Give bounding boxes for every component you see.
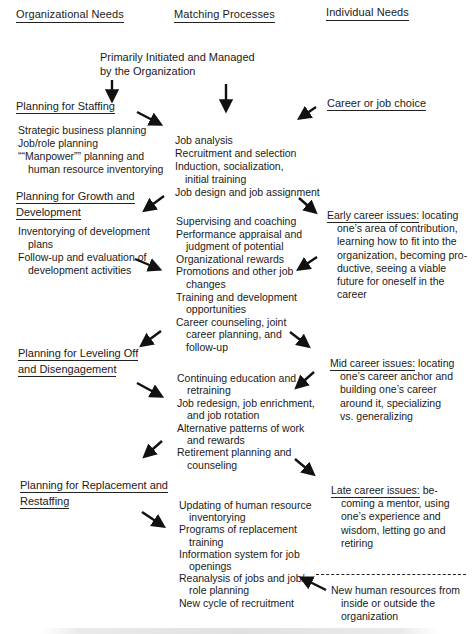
column-header-matching-processes: Matching Processes <box>174 8 275 23</box>
dashed-divider <box>316 574 466 575</box>
heading-text: Early career issues: <box>327 209 419 223</box>
org-heading-growth: Planning for Growth and Development <box>16 189 135 219</box>
arrow-left-down-icon <box>142 331 161 345</box>
heading-text: Mid career issues: <box>330 357 415 371</box>
list-item: Induction, socialization, <box>175 160 320 173</box>
heading-text: and Disengagement <box>18 363 116 377</box>
list-item: Continuing education and <box>177 372 315 384</box>
list-line: wisdom, letting go and <box>331 524 450 537</box>
note-line: Primarily Initiated and Managed <box>100 50 255 64</box>
list-line: vs. generalizing <box>330 410 454 423</box>
list-item: role planning <box>179 584 312 596</box>
org-heading-staffing: Planning for Staffing <box>16 99 115 113</box>
column-header-organizational-needs: Organizational Needs <box>16 8 124 23</box>
list-line: organization <box>331 610 460 623</box>
heading-rest: locating <box>419 209 458 221</box>
list-item: Strategic business planning <box>18 124 163 137</box>
org-heading-replacement: Planning for Replacement and Restaffing <box>20 478 168 508</box>
ind-mid-career: Mid career issues: locating one’s career… <box>330 357 454 423</box>
heading-text: Planning for Growth and <box>16 190 135 204</box>
list-line: around it, specializing <box>330 397 454 410</box>
cutoff-caption <box>40 628 440 634</box>
list-item: Promotions and other job <box>176 265 302 278</box>
list-item: Information system for job <box>179 548 312 560</box>
list-line: one’s area of contribution, <box>327 222 467 235</box>
list-item: plans <box>18 238 150 251</box>
list-item: human resource inventorying <box>18 163 163 176</box>
matching-list-growth: Supervising and coaching Performance app… <box>176 215 302 354</box>
list-item: Job analysis <box>175 134 320 147</box>
list-item: Training and development <box>176 291 302 304</box>
ind-late-career: Late career issues: be- coming a mentor,… <box>331 484 450 550</box>
list-item: retraining <box>177 384 315 396</box>
list-item: training <box>179 536 312 548</box>
heading-text: Planning for Replacement and <box>20 479 168 493</box>
list-line: career <box>327 288 467 301</box>
column-header-individual-needs: Individual Needs <box>326 6 409 21</box>
list-item: Job redesign, job enrichment, <box>177 397 315 409</box>
org-list-growth: Inventorying of development plans Follow… <box>18 225 150 277</box>
heading-text: Planning for Staffing <box>16 100 115 114</box>
list-line: one’s career anchor and <box>330 370 454 383</box>
arrow-right-down-icon <box>142 512 163 526</box>
list-item: development activities <box>18 264 150 277</box>
list-item: Career counseling, joint <box>176 316 302 329</box>
heading-text: Development <box>16 206 81 220</box>
list-line: learning how to fit into the <box>327 235 467 248</box>
list-item: inventorying <box>179 511 312 523</box>
matching-list-replacement: Updating of human resource inventorying … <box>179 499 312 609</box>
heading-rest: be- <box>420 484 438 496</box>
heading-text: Planning for Leveling Off <box>18 347 138 361</box>
list-item: Programs of replacement <box>179 523 312 535</box>
list-item: follow-up <box>176 341 302 354</box>
list-line: retiring <box>331 537 450 550</box>
ind-early-career: Early career issues: locating one’s area… <box>327 209 467 301</box>
list-item: Updating of human resource <box>179 499 312 511</box>
list-item: Reanalysis of jobs and job/ <box>179 572 312 584</box>
list-item: career planning, and <box>176 328 302 341</box>
list-item: judgment of potential <box>176 240 302 253</box>
heading-text: Late career issues: <box>331 484 420 498</box>
list-item: Organizational rewards <box>176 253 302 266</box>
heading-text: Restaffing <box>20 495 69 509</box>
list-item: and job rotation <box>177 409 315 421</box>
list-item: opportunities <box>176 303 302 316</box>
list-item: Retirement planning and <box>177 446 315 458</box>
list-line: New human resources from <box>331 584 460 597</box>
org-heading-leveling-off: Planning for Leveling Off and Disengagem… <box>18 346 138 376</box>
list-item: changes <box>176 278 302 291</box>
arrow-right-down-icon <box>137 112 160 124</box>
list-item: counseling <box>177 459 315 471</box>
list-line: coming a mentor, using <box>331 497 450 510</box>
ind-heading-career-choice: Career or job choice <box>327 96 426 110</box>
list-item: openings <box>179 560 312 572</box>
list-item: and rewards <box>177 434 315 446</box>
list-item: ““Manpower”” planning and <box>18 150 163 163</box>
list-line: organization, becoming pro- <box>327 249 467 262</box>
note-line: by the Organization <box>100 64 255 78</box>
org-list-staffing: Strategic business planning Job/role pla… <box>18 124 163 176</box>
list-item: Performance appraisal and <box>176 228 302 241</box>
list-line: building one’s career <box>330 383 454 396</box>
matching-list-leveling: Continuing education and retraining Job … <box>177 372 315 471</box>
heading-rest: locating <box>415 357 454 369</box>
list-item: Job/role planning <box>18 137 163 150</box>
list-line: future for oneself in the <box>327 275 467 288</box>
arrow-left-down-icon <box>145 441 162 456</box>
initiated-by-organization-note: Primarily Initiated and Managed by the O… <box>100 50 255 78</box>
list-item: Recruitment and selection <box>175 147 320 160</box>
heading-text: Career or job choice <box>327 97 426 111</box>
list-item: initial training <box>175 173 320 186</box>
arrow-right-down-icon <box>299 198 315 212</box>
list-line: ductive, seeing a viable <box>327 262 467 275</box>
arrow-left-down-icon <box>145 196 164 210</box>
list-item: New cycle of recruitment <box>179 597 312 609</box>
list-line: inside or outside the <box>331 597 460 610</box>
list-item: Supervising and coaching <box>176 215 302 228</box>
list-item: Job design and job assignment <box>175 186 320 199</box>
list-item: Follow-up and evaluation of <box>18 251 150 264</box>
new-human-resources-note: New human resources from inside or outsi… <box>331 584 460 623</box>
list-item: Alternative patterns of work <box>177 422 315 434</box>
list-line: one’s experience and <box>331 510 450 523</box>
arrow-right-down-icon <box>137 383 161 396</box>
